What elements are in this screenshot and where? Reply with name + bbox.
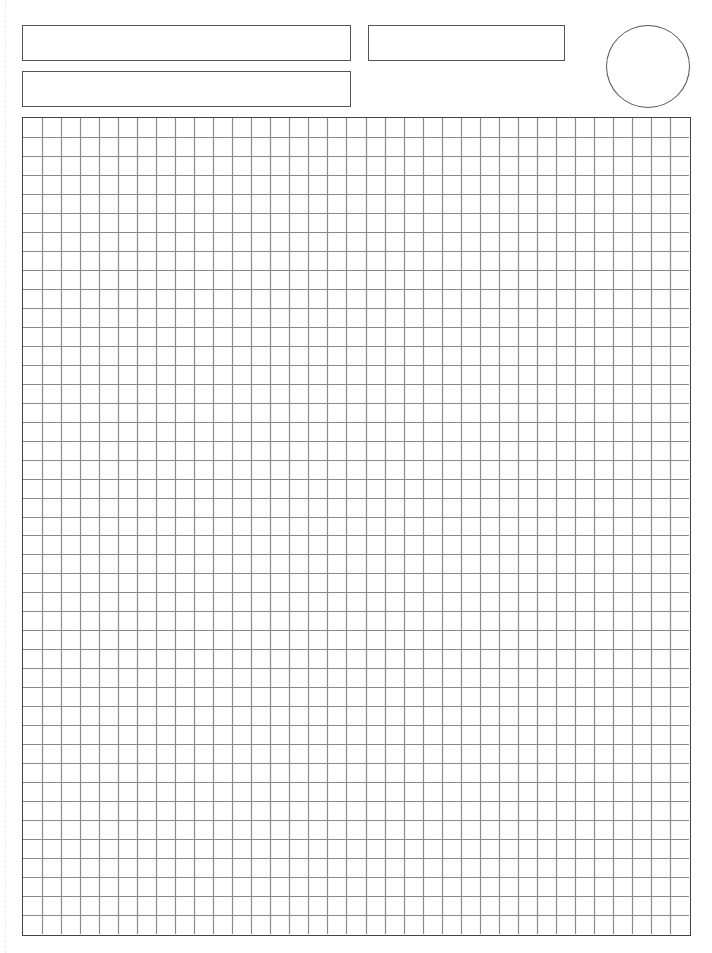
header-field-3[interactable] xyxy=(368,25,565,61)
grid-lines xyxy=(23,118,689,934)
grid-area[interactable] xyxy=(22,117,691,936)
header-field-1[interactable] xyxy=(22,25,351,61)
header-field-2[interactable] xyxy=(22,71,351,107)
header-badge-circle[interactable] xyxy=(606,25,690,108)
perforation-edge xyxy=(5,0,6,953)
